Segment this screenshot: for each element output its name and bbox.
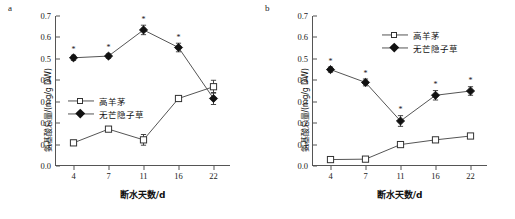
- x-axis-tick-mark: [330, 166, 331, 170]
- legend: 高羊茅无芒隐子草: [68, 94, 144, 120]
- significance-marker: *: [72, 45, 76, 54]
- significance-marker: *: [399, 105, 403, 114]
- data-point-marker: [467, 133, 473, 139]
- legend-marker: [391, 32, 397, 38]
- x-axis-tick-label: 4: [328, 171, 332, 181]
- data-point-marker: [397, 141, 403, 147]
- y-axis-tick-label: 0.5: [297, 54, 313, 64]
- x-axis-tick-mark: [143, 166, 144, 170]
- x-axis-tick-mark: [435, 166, 436, 170]
- data-point-marker: [139, 26, 147, 34]
- legend-label: 无芒隐子草: [408, 42, 458, 54]
- x-axis-tick-label: 22: [209, 171, 218, 181]
- x-axis-tick-mark: [470, 166, 471, 170]
- series-filled-diamond: *****: [326, 57, 474, 127]
- y-axis-tick-label: 0.0: [297, 161, 313, 171]
- x-axis-tick-label: 11: [396, 171, 404, 181]
- y-axis-tick-label: 0.2: [297, 118, 313, 128]
- y-axis-tick-label: 0.0: [40, 161, 56, 171]
- x-axis-tick-mark: [400, 166, 401, 170]
- y-axis-tick-label: 0.6: [40, 32, 56, 42]
- significance-marker: *: [142, 15, 146, 24]
- x-axis-tick-mark: [365, 166, 366, 170]
- x-axis-label: 断水天数/d: [312, 188, 487, 201]
- y-axis-tick-label: 0.1: [40, 140, 56, 150]
- x-axis-tick-label: 16: [431, 171, 440, 181]
- panel-label-b: b: [265, 3, 270, 13]
- figure-two-panel-line-charts: a 氨基酸总量/(mg/g DW) 0.00.10.20.30.40.50.60…: [0, 0, 515, 219]
- series-filled-diamond: ****: [69, 15, 217, 105]
- legend-label: 无芒隐子草: [94, 108, 144, 120]
- significance-marker: *: [329, 57, 333, 66]
- legend-item: 高羊茅: [382, 28, 458, 41]
- data-point-marker: [210, 84, 216, 90]
- data-point-marker: [69, 54, 77, 62]
- data-point-marker: [432, 137, 438, 143]
- x-axis-label: 断水天数/d: [55, 188, 230, 201]
- legend-marker: [390, 43, 399, 52]
- x-axis-tick-mark: [213, 166, 214, 170]
- y-axis-tick-label: 0.6: [297, 32, 313, 42]
- significance-marker: *: [434, 80, 438, 89]
- legend-marker: [77, 98, 83, 104]
- data-point-marker: [431, 91, 439, 99]
- y-axis-tick-label: 0.7: [40, 11, 56, 21]
- legend: 高羊茅无芒隐子草: [382, 28, 458, 54]
- x-axis-tick-label: 11: [139, 171, 147, 181]
- data-point-marker: [362, 156, 368, 162]
- data-point-marker: [175, 95, 181, 101]
- open-square-icon: [382, 30, 408, 40]
- data-point-marker: [209, 94, 217, 102]
- y-axis-tick-label: 0.2: [40, 118, 56, 128]
- y-axis-tick-label: 0.5: [40, 54, 56, 64]
- x-axis-tick-label: 7: [106, 171, 110, 181]
- panel-label-a: a: [8, 3, 12, 13]
- significance-marker: *: [107, 43, 111, 52]
- data-point-marker: [326, 65, 334, 73]
- x-axis-tick-label: 16: [174, 171, 183, 181]
- y-axis-tick-label: 0.3: [40, 97, 56, 107]
- y-axis-tick-label: 0.4: [297, 75, 313, 85]
- legend-marker: [76, 109, 85, 118]
- y-axis-tick-label: 0.3: [297, 97, 313, 107]
- legend-item: 无芒隐子草: [382, 41, 458, 54]
- y-axis-tick-label: 0.1: [297, 140, 313, 150]
- x-axis-tick-label: 7: [363, 171, 367, 181]
- plot-area: 0.00.10.20.30.40.50.60.747111622****: [55, 16, 230, 166]
- chart-panel-a: a 氨基酸总量/(mg/g DW) 0.00.10.20.30.40.50.60…: [0, 0, 257, 219]
- filled-diamond-icon: [68, 109, 94, 119]
- y-axis-tick-label: 0.4: [40, 75, 56, 85]
- x-axis-tick-mark: [178, 166, 179, 170]
- data-point-marker: [140, 137, 146, 143]
- x-axis-tick-mark: [73, 166, 74, 170]
- data-point-marker: [70, 140, 76, 146]
- legend-label: 高羊茅: [94, 95, 126, 107]
- x-axis-tick-mark: [108, 166, 109, 170]
- significance-marker: *: [469, 76, 473, 85]
- x-axis-tick-label: 22: [466, 171, 475, 181]
- filled-diamond-icon: [382, 43, 408, 53]
- data-point-marker: [174, 43, 182, 51]
- legend-item: 高羊茅: [68, 94, 144, 107]
- legend-label: 高羊茅: [408, 29, 440, 41]
- open-square-icon: [68, 96, 94, 106]
- legend-item: 无芒隐子草: [68, 107, 144, 120]
- significance-marker: *: [364, 69, 368, 78]
- data-point-marker: [327, 156, 333, 162]
- series-open-square: [327, 133, 473, 163]
- series-line: [74, 30, 214, 99]
- x-axis-tick-label: 4: [71, 171, 75, 181]
- significance-marker: *: [177, 33, 181, 42]
- data-point-marker: [105, 126, 111, 132]
- data-point-marker: [104, 52, 112, 60]
- series-layer: ****: [56, 16, 231, 166]
- data-point-marker: [466, 87, 474, 95]
- chart-panel-b: b 氨基酸总量/(mg/g DW) 0.00.10.20.30.40.50.60…: [257, 0, 514, 219]
- y-axis-tick-label: 0.7: [297, 11, 313, 21]
